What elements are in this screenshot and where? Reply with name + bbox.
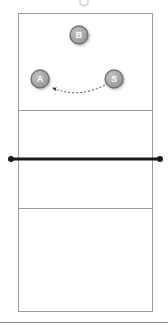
player-token-b-circle: [70, 26, 88, 44]
net-post-right: [157, 156, 163, 162]
clipped-top-marker: [80, 0, 88, 6]
net-post-left: [8, 156, 14, 162]
volleyball-court-diagram: B A S: [0, 0, 168, 329]
player-token-a[interactable]: A: [31, 70, 49, 88]
court-boundary: [19, 14, 153, 312]
player-token-b[interactable]: B: [70, 26, 88, 44]
player-token-s-circle: [105, 70, 123, 88]
court-svg: B A S: [0, 0, 168, 329]
player-token-a-circle: [31, 70, 49, 88]
player-token-s[interactable]: S: [105, 70, 123, 88]
